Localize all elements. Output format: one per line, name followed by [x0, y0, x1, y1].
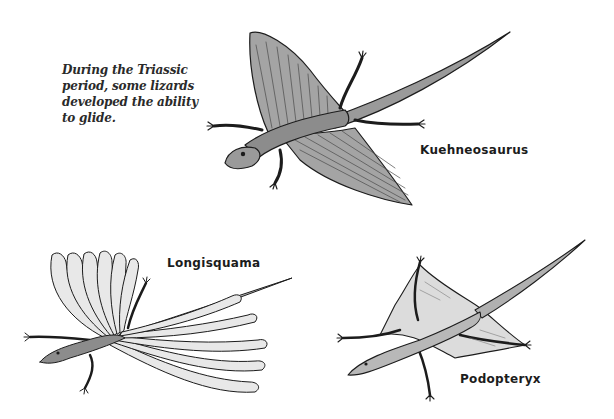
- longisquama-label: Longisquama: [167, 256, 260, 270]
- podopteryx-label: Podopteryx: [460, 372, 541, 386]
- kuehneosaurus-drawing: [207, 32, 510, 205]
- kuehneosaurus-label: Kuehneosaurus: [420, 143, 529, 157]
- longisquama-drawing: [24, 251, 292, 394]
- drawings: [0, 0, 614, 419]
- illustration-page: During the Triassic period, some lizards…: [0, 0, 614, 419]
